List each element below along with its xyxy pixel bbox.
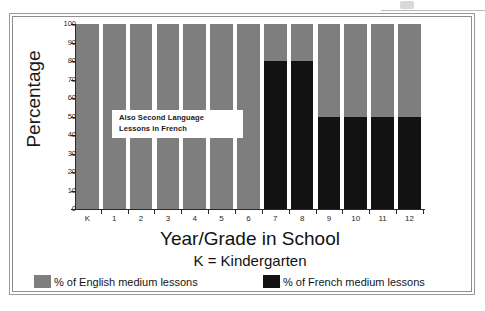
chart-screenshot: Percentage 0102030405060708090100 K12345… [0,0,485,311]
x-axis-tick [128,209,129,214]
x-axis-tick [208,209,209,214]
x-axis-tick-label: 12 [398,214,421,223]
y-axis-tick-label: 100 [48,20,76,28]
y-axis-tick-label-text: 10 [54,187,76,195]
x-axis-tick-label: 2 [130,214,153,223]
y-axis-tick-label: 30 [48,150,76,158]
bar-column[interactable] [398,24,421,209]
bar-segment-french[interactable] [264,61,287,209]
bar-segment-french[interactable] [291,61,314,209]
y-axis-tick-label: 90 [48,39,76,47]
bar-segment-french[interactable] [371,117,394,210]
bar-segment-french[interactable] [318,117,341,210]
legend-swatch-english-icon [34,275,51,288]
y-axis-tick-label-text: 0 [54,205,76,213]
y-axis-tick-label-text: 70 [54,76,76,84]
y-axis-tick-label: 50 [48,113,76,121]
bar-segment-english[interactable] [264,24,287,61]
annotation-line-2: Lessons in French [119,124,237,135]
bar-column[interactable] [318,24,341,209]
y-axis-title: Percentage [23,19,45,179]
x-axis-tick [369,209,370,214]
x-axis-tick [154,209,155,214]
x-axis-tick [262,209,263,214]
bar-segment-english[interactable] [291,24,314,61]
y-axis-tick-label-text: 40 [54,131,76,139]
x-axis-tick-label: 6 [237,214,260,223]
y-axis-tick-label: 10 [48,187,76,195]
y-axis-tick-label-text: 90 [54,39,76,47]
x-axis-tick [289,209,290,214]
bar-segment-english[interactable] [398,24,421,117]
bar-segment-french[interactable] [344,117,367,210]
y-axis-tick-label: 0 [48,205,76,213]
y-axis-tick-label-text: 50 [54,113,76,121]
y-axis-tick-label-text: 30 [54,150,76,158]
bar-segment-english[interactable] [344,24,367,117]
bar-segment-english[interactable] [318,24,341,117]
annotation-line-1: Also Second Language [119,113,237,124]
x-axis-tick-label: 9 [318,214,341,223]
x-axis-tick-label: 1 [103,214,126,223]
y-axis-tick-label-text: 100 [54,20,76,28]
y-axis-tick-label: 60 [48,94,76,102]
legend-swatch-french-icon [263,275,280,288]
bar-column[interactable] [76,24,99,209]
x-axis-tick-label: 11 [371,214,394,223]
y-axis-tick-label-text: 80 [54,57,76,65]
x-axis-title: Year/Grade in School [75,228,425,250]
x-axis-subtitle: K = Kindergarten [75,252,425,269]
bar-column[interactable] [291,24,314,209]
bar-segment-english[interactable] [76,24,99,209]
chart-legend: % of English medium lessons % of French … [26,275,460,293]
x-axis-tick-label: 7 [264,214,287,223]
plot-area: Percentage 0102030405060708090100 K12345… [0,0,485,311]
x-axis-tick [235,209,236,214]
x-axis-tick [396,209,397,214]
legend-item-english: % of English medium lessons [34,275,198,288]
y-axis-tick-label: 70 [48,76,76,84]
bar-column[interactable] [344,24,367,209]
y-axis-tick-label-text: 60 [54,94,76,102]
legend-label-english: % of English medium lessons [54,276,198,288]
legend-item-french: % of French medium lessons [263,275,425,288]
bar-segment-french[interactable] [398,117,421,210]
x-axis-tick [316,209,317,214]
x-axis-tick-label: 8 [291,214,314,223]
x-axis-tick [101,209,102,214]
x-axis-tick-label: 4 [183,214,206,223]
x-axis-tick-label: 3 [157,214,180,223]
second-language-annotation: Also Second Language Lessons in French [112,110,243,138]
y-axis-tick-label: 80 [48,57,76,65]
bar-segment-english[interactable] [371,24,394,117]
bar-column[interactable] [264,24,287,209]
x-axis-tick-label: 10 [344,214,367,223]
y-axis-tick-label: 40 [48,131,76,139]
x-axis-tick-label: K [76,214,99,223]
y-axis-tick-label-text: 20 [54,168,76,176]
bar-column[interactable] [371,24,394,209]
x-axis-tick [342,209,343,214]
x-axis-tick-label: 5 [210,214,233,223]
legend-label-french: % of French medium lessons [283,276,425,288]
x-axis-tick [423,209,424,214]
x-axis-tick [181,209,182,214]
y-axis-tick-label: 20 [48,168,76,176]
